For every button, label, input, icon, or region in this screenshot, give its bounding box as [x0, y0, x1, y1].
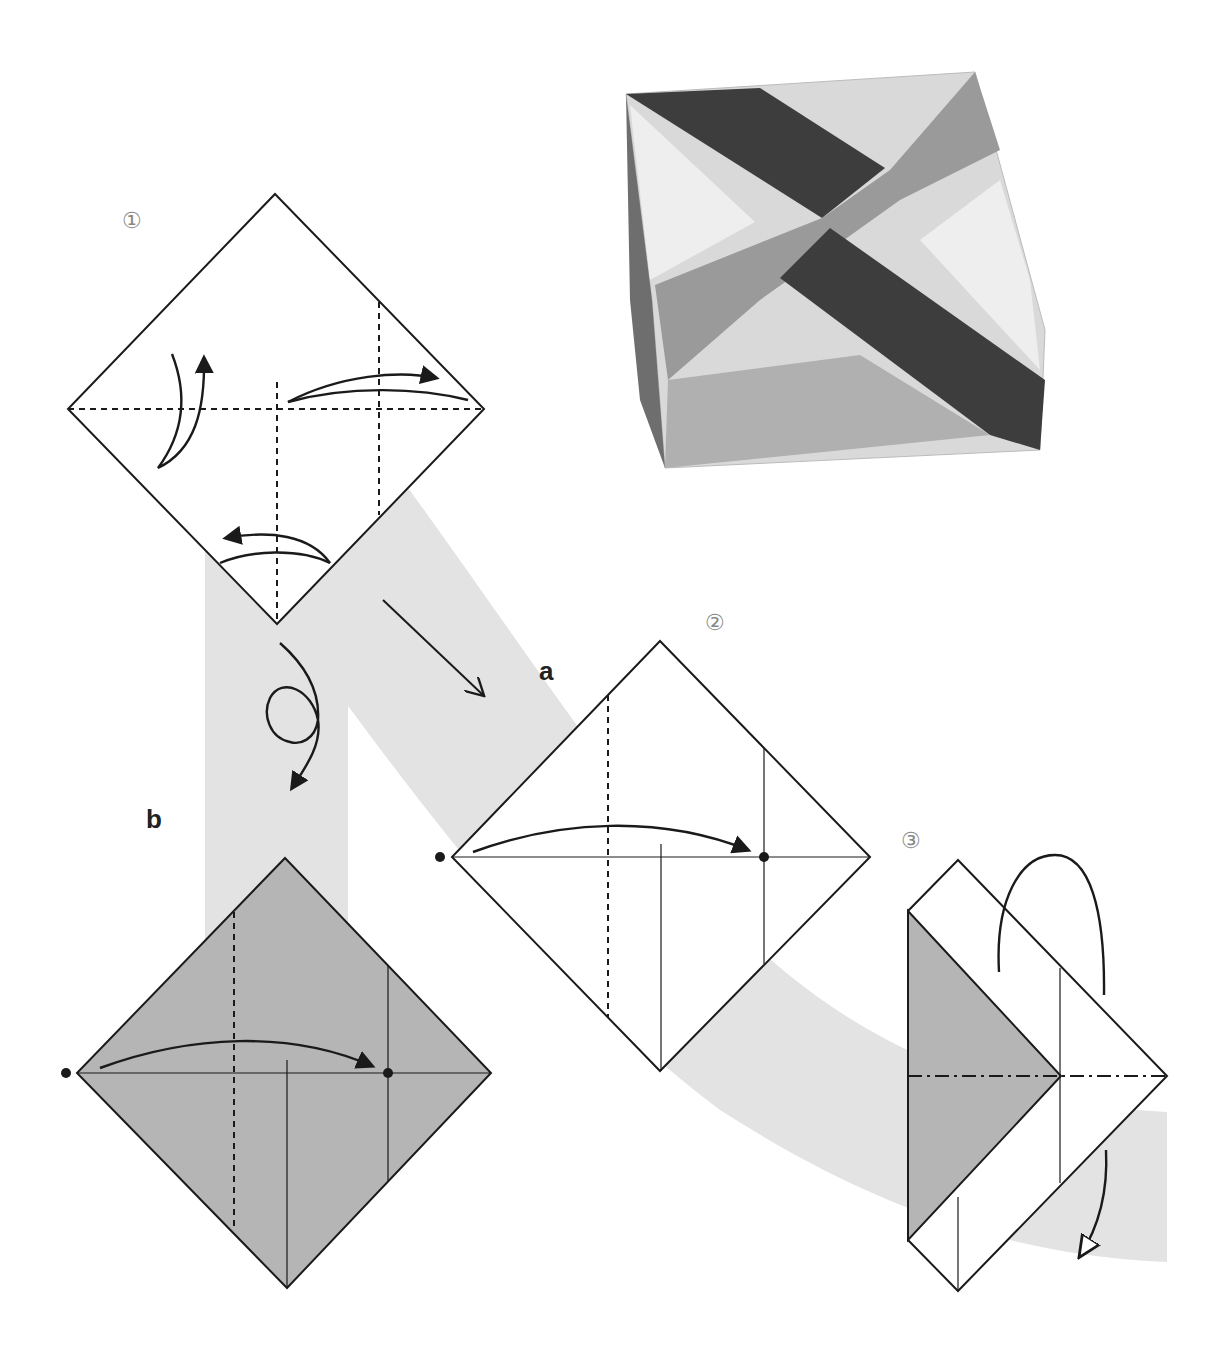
step2b-diagram — [61, 858, 491, 1288]
reference-dot — [435, 852, 445, 862]
reference-dot — [759, 852, 769, 862]
step-number-3: ③ — [901, 828, 921, 853]
reference-dot — [383, 1068, 393, 1078]
variant-label-a: a — [539, 656, 553, 687]
variant-label-b: b — [146, 804, 162, 835]
origami-diagram — [0, 0, 1225, 1368]
step-number-2: ② — [705, 610, 725, 635]
step-number-1: ① — [122, 208, 142, 233]
finished-box-photo — [626, 72, 1045, 468]
reference-dot — [61, 1068, 71, 1078]
